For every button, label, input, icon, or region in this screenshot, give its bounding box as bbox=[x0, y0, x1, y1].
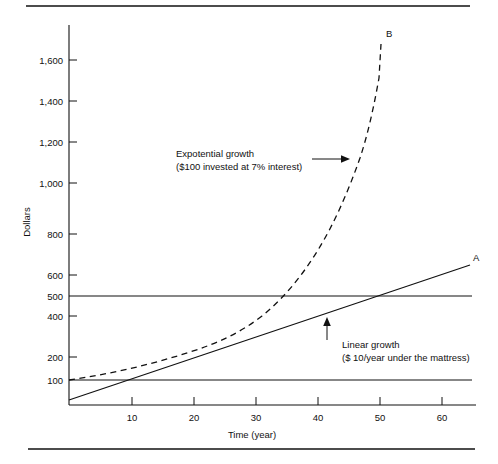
y-tick-label-800: 800 bbox=[47, 229, 63, 240]
x-axis-title: Time (year) bbox=[228, 429, 276, 440]
y-tick-label-400: 400 bbox=[47, 311, 63, 322]
y-tick-label-1400: 1,400 bbox=[39, 96, 63, 107]
y-tick-label-1600: 1,600 bbox=[39, 55, 63, 66]
y-tick-label-500: 500 bbox=[47, 291, 63, 302]
x-tick-label-30: 30 bbox=[251, 412, 262, 423]
y-axis-ticks bbox=[69, 60, 77, 357]
y-tick-label-1200: 1,200 bbox=[39, 137, 63, 148]
point-label-a: A bbox=[473, 252, 480, 263]
linear-annotation-line2: ($ 10/year under the mattress) bbox=[342, 352, 470, 363]
linear-annotation-line1: Linear growth bbox=[342, 339, 400, 350]
exponential-annotation-line2: ($100 invested at 7% interest) bbox=[176, 161, 302, 172]
x-tick-label-50: 50 bbox=[375, 412, 386, 423]
linear-annotation-arrow-icon bbox=[323, 317, 331, 340]
exponential-annotation-line1: Expotential growth bbox=[176, 148, 254, 159]
growth-chart-svg: 1,600 1,400 1,200 1,000 800 600 500 400 … bbox=[0, 0, 498, 464]
x-tick-label-60: 60 bbox=[437, 412, 448, 423]
series-exponential-growth bbox=[69, 44, 381, 380]
x-axis-ticks bbox=[132, 397, 442, 405]
x-tick-label-20: 20 bbox=[189, 412, 200, 423]
y-tick-label-600: 600 bbox=[47, 270, 63, 281]
y-axis-title: Dollars bbox=[21, 207, 32, 237]
chart-figure: 1,600 1,400 1,200 1,000 800 600 500 400 … bbox=[0, 0, 498, 464]
x-tick-label-10: 10 bbox=[127, 412, 138, 423]
y-tick-label-100: 100 bbox=[47, 375, 63, 386]
y-tick-label-1000: 1,000 bbox=[39, 178, 63, 189]
point-label-b: B bbox=[386, 28, 392, 39]
exponential-annotation-arrow-icon bbox=[312, 155, 350, 163]
y-tick-label-200: 200 bbox=[47, 352, 63, 363]
x-tick-label-40: 40 bbox=[313, 412, 324, 423]
